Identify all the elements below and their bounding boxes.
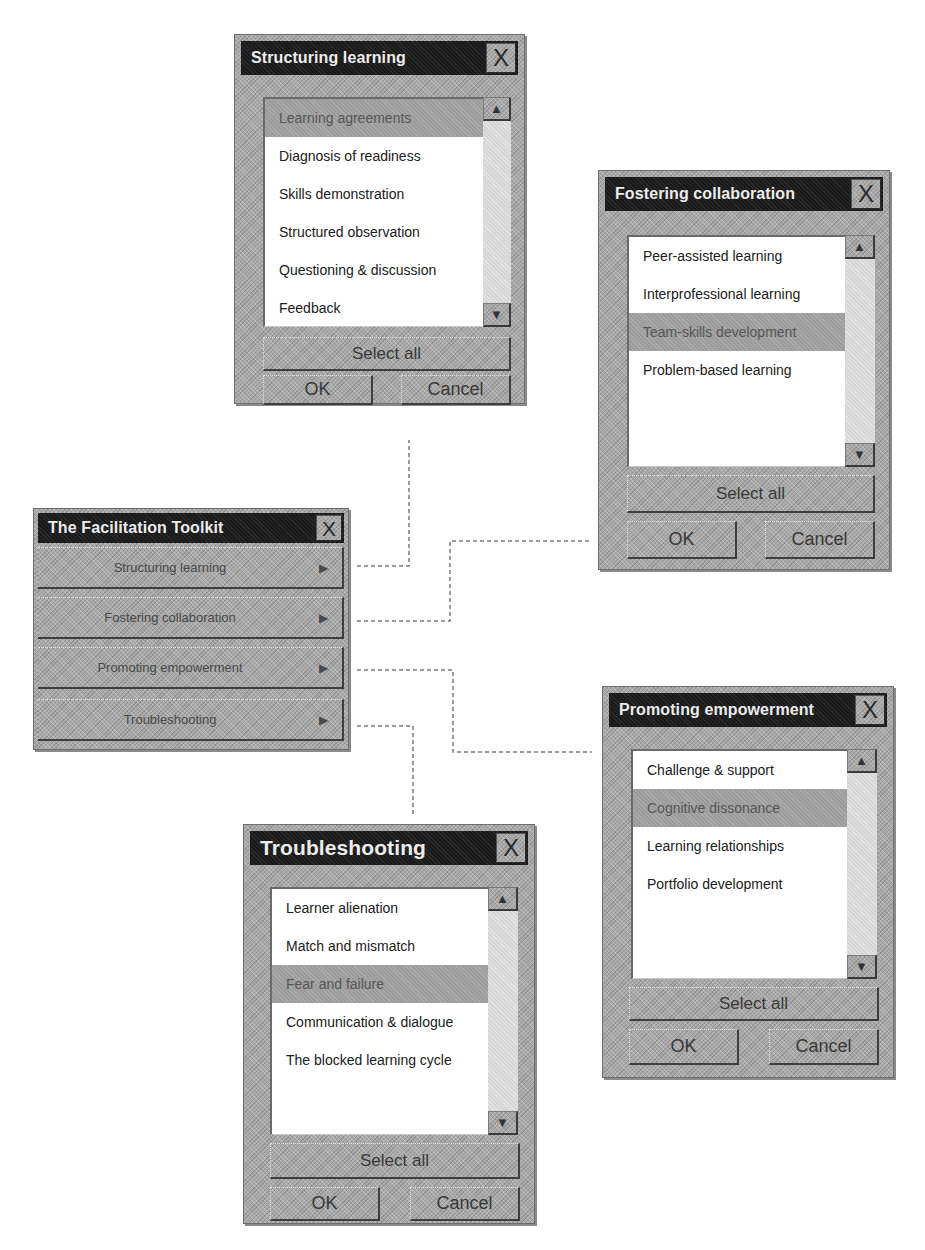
- dialog-title: Troubleshooting: [250, 836, 496, 860]
- list-item[interactable]: Communication & dialogue: [272, 1003, 488, 1041]
- ok-button[interactable]: OK: [629, 1029, 739, 1065]
- list-item[interactable]: Learning agreements: [265, 99, 483, 137]
- dialog-titlebar[interactable]: Fostering collaboration X: [605, 177, 883, 211]
- cancel-button[interactable]: Cancel: [401, 375, 511, 405]
- close-icon[interactable]: X: [496, 833, 526, 863]
- structuring-learning-dialog: Structuring learning X Learning agreemen…: [234, 34, 525, 404]
- scrollbar[interactable]: ▲ ▼: [847, 749, 877, 979]
- scroll-down-icon[interactable]: ▼: [488, 1111, 518, 1135]
- list-item[interactable]: Cognitive dissonance: [633, 789, 847, 827]
- promoting-empowerment-dialog: Promoting empowerment X Challenge & supp…: [602, 686, 894, 1078]
- cancel-button[interactable]: Cancel: [769, 1029, 879, 1065]
- connector-troubleshooting: [357, 726, 413, 815]
- list-item[interactable]: Questioning & discussion: [265, 251, 483, 289]
- ok-button[interactable]: OK: [270, 1187, 380, 1221]
- list-item[interactable]: Structured observation: [265, 213, 483, 251]
- list-item[interactable]: Portfolio development: [633, 865, 847, 903]
- menu-item-structuring-learning[interactable]: Structuring learning ▶: [38, 547, 344, 589]
- ok-button[interactable]: OK: [263, 375, 373, 405]
- list-item[interactable]: Interprofessional learning: [629, 275, 845, 313]
- list-item[interactable]: Diagnosis of readiness: [265, 137, 483, 175]
- scroll-down-icon[interactable]: ▼: [847, 955, 877, 979]
- close-icon[interactable]: X: [486, 43, 516, 73]
- scroll-down-icon[interactable]: ▼: [845, 443, 875, 467]
- scrollbar[interactable]: ▲ ▼: [488, 887, 518, 1135]
- submenu-arrow-icon: ▶: [319, 713, 328, 727]
- list-item[interactable]: Learner alienation: [272, 889, 488, 927]
- connector-structuring: [357, 440, 409, 566]
- select-all-button[interactable]: Select all: [629, 987, 879, 1021]
- window-title: The Facilitation Toolkit: [38, 519, 316, 537]
- dialog-titlebar[interactable]: Troubleshooting X: [250, 831, 528, 865]
- scroll-up-icon[interactable]: ▲: [847, 749, 877, 773]
- ok-button[interactable]: OK: [627, 521, 737, 559]
- cancel-button[interactable]: Cancel: [765, 521, 875, 559]
- menu-item-label: Promoting empowerment: [38, 648, 302, 687]
- dialog-titlebar[interactable]: Structuring learning X: [241, 41, 518, 75]
- connector-promoting: [357, 670, 592, 752]
- menu-item-label: Structuring learning: [38, 548, 302, 587]
- list-item[interactable]: Match and mismatch: [272, 927, 488, 965]
- submenu-arrow-icon: ▶: [319, 611, 328, 625]
- scrollbar[interactable]: ▲ ▼: [845, 235, 875, 467]
- select-all-button[interactable]: Select all: [263, 337, 511, 371]
- select-all-button[interactable]: Select all: [270, 1143, 520, 1179]
- structuring-listbox[interactable]: Learning agreements Diagnosis of readine…: [263, 97, 483, 327]
- menu-item-troubleshooting[interactable]: Troubleshooting ▶: [38, 699, 344, 741]
- scroll-down-icon[interactable]: ▼: [483, 303, 511, 327]
- troubleshooting-listbox[interactable]: Learner alienation Match and mismatch Fe…: [270, 887, 488, 1135]
- close-icon[interactable]: X: [316, 515, 342, 541]
- list-item[interactable]: The blocked learning cycle: [272, 1041, 488, 1079]
- scroll-up-icon[interactable]: ▲: [488, 887, 518, 911]
- list-item[interactable]: Problem-based learning: [629, 351, 845, 389]
- fostering-collaboration-dialog: Fostering collaboration X Peer-assisted …: [598, 170, 890, 570]
- list-item[interactable]: Learning relationships: [633, 827, 847, 865]
- list-item[interactable]: Skills demonstration: [265, 175, 483, 213]
- close-icon[interactable]: X: [851, 179, 881, 209]
- troubleshooting-dialog: Troubleshooting X Learner alienation Mat…: [243, 824, 535, 1224]
- submenu-arrow-icon: ▶: [319, 561, 328, 575]
- scroll-up-icon[interactable]: ▲: [845, 235, 875, 259]
- cancel-button[interactable]: Cancel: [410, 1187, 520, 1221]
- scrollbar[interactable]: ▲ ▼: [483, 97, 511, 327]
- fostering-listbox[interactable]: Peer-assisted learning Interprofessional…: [627, 235, 845, 467]
- list-item[interactable]: Team-skills development: [629, 313, 845, 351]
- select-all-button[interactable]: Select all: [627, 475, 875, 513]
- dialog-title: Fostering collaboration: [605, 185, 851, 203]
- menu-item-promoting-empowerment[interactable]: Promoting empowerment ▶: [38, 647, 344, 689]
- list-item[interactable]: Feedback: [265, 289, 483, 327]
- facilitation-toolkit-titlebar[interactable]: The Facilitation Toolkit X: [38, 513, 344, 543]
- dialog-title: Structuring learning: [241, 49, 486, 67]
- close-icon[interactable]: X: [855, 695, 885, 725]
- connector-fostering: [357, 541, 592, 621]
- promoting-listbox[interactable]: Challenge & support Cognitive dissonance…: [631, 749, 847, 979]
- dialog-titlebar[interactable]: Promoting empowerment X: [609, 693, 887, 727]
- list-item[interactable]: Fear and failure: [272, 965, 488, 1003]
- menu-item-label: Fostering collaboration: [38, 598, 302, 637]
- list-item[interactable]: Peer-assisted learning: [629, 237, 845, 275]
- submenu-arrow-icon: ▶: [319, 661, 328, 675]
- scroll-up-icon[interactable]: ▲: [483, 97, 511, 121]
- menu-item-label: Troubleshooting: [38, 700, 302, 739]
- dialog-title: Promoting empowerment: [609, 701, 855, 719]
- list-item[interactable]: Challenge & support: [633, 751, 847, 789]
- facilitation-toolkit-window: The Facilitation Toolkit X Structuring l…: [33, 508, 349, 750]
- menu-item-fostering-collaboration[interactable]: Fostering collaboration ▶: [38, 597, 344, 639]
